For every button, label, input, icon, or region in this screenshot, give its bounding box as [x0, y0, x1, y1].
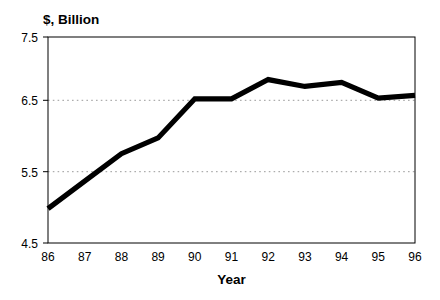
y-tick-label-7.5: 7.5 [21, 31, 38, 45]
x-axis-title: Year [217, 272, 246, 287]
x-tick-label-88: 88 [115, 250, 129, 264]
x-tick-label-95: 95 [372, 250, 386, 264]
y-tick-label-6.5: 6.5 [21, 94, 38, 108]
x-tick-label-92: 92 [262, 250, 276, 264]
x-tick-label-86: 86 [41, 250, 55, 264]
x-tick-label-91: 91 [225, 250, 239, 264]
line-chart: $, Billion 7.5 6.5 5.5 4.5 86 87 88 89 9… [0, 0, 440, 300]
chart-canvas: $, Billion 7.5 6.5 5.5 4.5 86 87 88 89 9… [0, 0, 440, 300]
x-tick-label-94: 94 [335, 250, 349, 264]
x-tick-label-89: 89 [151, 250, 165, 264]
y-axis-unit-label: $, Billion [43, 12, 99, 27]
x-tick-label-93: 93 [298, 250, 312, 264]
x-tick-label-87: 87 [78, 250, 92, 264]
x-tick-label-96: 96 [408, 250, 422, 264]
y-tick-label-4.5: 4.5 [21, 237, 38, 251]
x-tick-label-90: 90 [188, 250, 202, 264]
y-tick-label-5.5: 5.5 [21, 166, 38, 180]
